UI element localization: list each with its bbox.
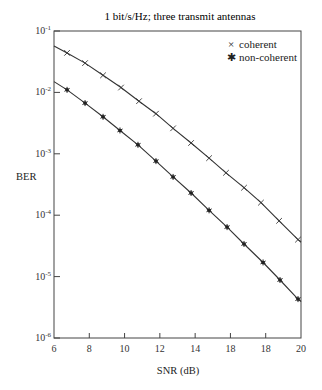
plot-area	[54, 46, 301, 302]
x-marker-icon	[82, 60, 88, 66]
y-axis-label: BER	[16, 171, 36, 182]
y-tick-label: 10-1	[35, 24, 51, 36]
y-tick-label: 10-6	[35, 331, 51, 343]
ber-chart: 1 bit/s/Hz; three transmit antennas 10-1…	[0, 0, 322, 390]
x-marker-icon	[241, 185, 247, 191]
plot-frame	[54, 31, 301, 338]
y-tick-label: 10-3	[35, 147, 51, 159]
y-tick-label: 10-2	[35, 85, 51, 97]
y-tick-label: 10-5	[35, 270, 51, 282]
x-marker-icon	[118, 85, 124, 91]
star-marker-icon	[82, 100, 87, 106]
series-line-coherent	[54, 46, 301, 242]
x-marker-icon	[170, 126, 176, 132]
x-marker-icon	[64, 50, 70, 56]
x-marker-icon	[136, 98, 142, 104]
x-tick-label: 6	[52, 343, 57, 354]
x-marker-icon	[100, 72, 106, 78]
chart-title: 1 bit/s/Hz; three transmit antennas	[105, 10, 256, 22]
x-marker-icon	[276, 218, 282, 224]
x-tick-label: 10	[120, 343, 130, 354]
y-axis: 10-110-210-310-410-510-6	[35, 24, 60, 343]
x-axis-label: SNR (dB)	[157, 365, 200, 377]
series-line-non-coherent	[54, 82, 301, 302]
x-tick-label: 18	[225, 343, 235, 354]
x-tick-label: 20	[296, 343, 306, 354]
x-tick-label: 8	[87, 343, 92, 354]
y-tick-label: 10-4	[35, 208, 51, 220]
x-marker-icon	[188, 140, 194, 146]
x-marker-icon	[206, 155, 212, 161]
legend: × coherent ✱ non-coherent	[227, 38, 297, 63]
legend-coherent-label: coherent	[239, 38, 277, 50]
x-marker-icon	[223, 170, 229, 176]
legend-coherent-symbol: ×	[228, 38, 234, 50]
x-marker-icon	[258, 200, 264, 206]
x-marker-icon	[153, 111, 159, 117]
x-tick-label: 12	[155, 343, 165, 354]
legend-noncoherent-label: non-coherent	[239, 51, 297, 63]
legend-noncoherent-symbol: ✱	[227, 51, 236, 63]
x-tick-label: 18	[261, 343, 271, 354]
x-axis: 68101214181820	[52, 333, 307, 354]
x-tick-label: 14	[190, 343, 200, 354]
star-marker-icon	[64, 87, 69, 93]
x-marker-icon	[295, 237, 301, 243]
